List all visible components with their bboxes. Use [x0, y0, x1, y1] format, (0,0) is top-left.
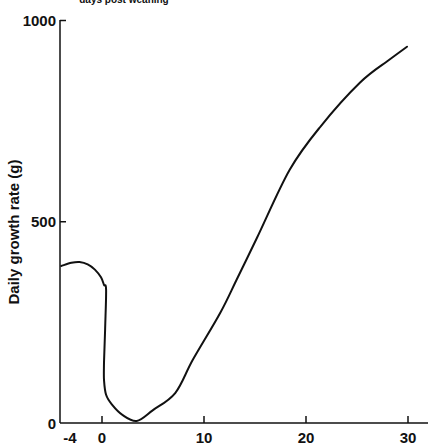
axes [60, 20, 428, 423]
x-tick-label: 0 [98, 429, 106, 445]
x-tick-label: 30 [400, 429, 417, 445]
y-tick-label: 1000 [23, 12, 56, 29]
x-tick-label: 20 [298, 429, 315, 445]
x-tick-label: -4 [63, 429, 77, 445]
growth-curve [61, 47, 407, 421]
growth-rate-chart: days post weaning Daily growth rate (g) … [0, 0, 428, 445]
y-tick-label: 500 [31, 213, 56, 230]
tick-labels: 05001000-40102030 [23, 12, 417, 445]
y-tick-label: 0 [48, 415, 56, 432]
y-axis-title: Daily growth rate (g) [5, 159, 22, 304]
x-tick-label: 10 [196, 429, 213, 445]
top-caption: days post weaning [79, 0, 168, 5]
